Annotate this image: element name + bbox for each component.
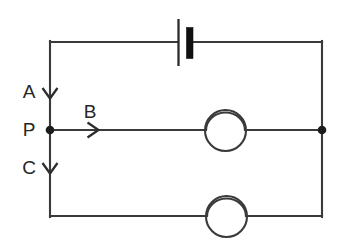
label-a: A — [23, 81, 36, 102]
circuit-diagram-canvas: A B P C — [0, 0, 343, 247]
battery-cell — [179, 19, 194, 66]
junction-dot-p — [46, 126, 55, 135]
lamp-middle-envelope — [205, 110, 246, 151]
label-c: C — [22, 157, 36, 178]
label-p: P — [23, 119, 36, 140]
junction-dot-right — [318, 126, 327, 135]
circuit-diagram-root: A B P C — [0, 0, 343, 247]
lamp-bottom-branch — [206, 196, 247, 237]
lamp-middle-branch — [205, 110, 246, 151]
label-b: B — [84, 101, 97, 122]
wire-group — [50, 41, 322, 217]
battery-short-plate — [187, 28, 194, 59]
lamp-bottom-envelope — [206, 196, 247, 237]
